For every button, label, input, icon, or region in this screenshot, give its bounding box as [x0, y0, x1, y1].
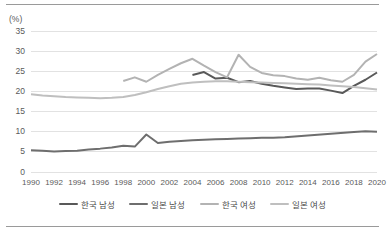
legend-label: 일본 남성: [151, 198, 185, 210]
legend-swatch-icon: [200, 203, 219, 205]
legend-label: 일본 여성: [292, 198, 326, 210]
legend-item[interactable]: 한국 남성: [59, 198, 115, 210]
legend-label: 한국 남성: [81, 198, 115, 210]
legend-item[interactable]: 일본 남성: [129, 198, 185, 210]
legend-label: 한국 여성: [222, 198, 256, 210]
legend-swatch-icon: [59, 203, 78, 205]
legend-swatch-icon: [129, 203, 148, 205]
legend-item[interactable]: 일본 여성: [270, 198, 326, 210]
legend-item[interactable]: 한국 여성: [200, 198, 256, 210]
legend-swatch-icon: [270, 203, 289, 205]
series-line-2: [123, 54, 377, 82]
series-line-1: [31, 131, 377, 151]
chart-legend: 한국 남성일본 남성한국 여성일본 여성: [0, 198, 385, 210]
